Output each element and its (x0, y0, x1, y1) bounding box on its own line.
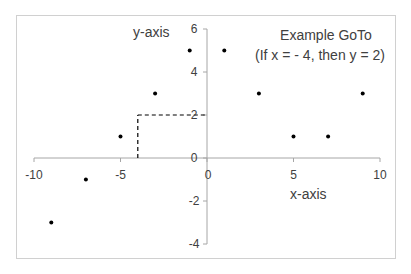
annotation-line2: (If x = - 4, then y = 2) (255, 47, 385, 63)
y-tick-label: 6 (191, 22, 198, 36)
y-tick-label: -4 (189, 237, 200, 251)
annotation-line1: Example GoTo (280, 27, 372, 43)
data-point (257, 92, 261, 96)
x-tick-label: 5 (290, 168, 297, 182)
data-point (153, 92, 157, 96)
data-point (326, 135, 330, 139)
x-tick-label: -10 (25, 168, 43, 182)
data-point (119, 135, 123, 139)
y-tick-label: 0 (191, 151, 198, 165)
data-point (361, 92, 365, 96)
data-point (188, 49, 192, 53)
data-point (292, 135, 296, 139)
y-tick-label: 4 (191, 65, 198, 79)
y-tick-label: -2 (189, 194, 200, 208)
scatter-chart: -10-50510-4-20246 y-axis x-axis Example … (0, 0, 411, 274)
x-tick-label: 0 (205, 168, 212, 182)
data-point (84, 178, 88, 182)
x-axis-label: x-axis (290, 186, 327, 202)
data-point (49, 221, 53, 225)
y-axis-label: y-axis (133, 24, 170, 40)
y-tick-label: 2 (191, 108, 198, 122)
x-tick-label: 10 (373, 168, 387, 182)
data-point (222, 49, 226, 53)
x-tick-label: -5 (115, 168, 126, 182)
